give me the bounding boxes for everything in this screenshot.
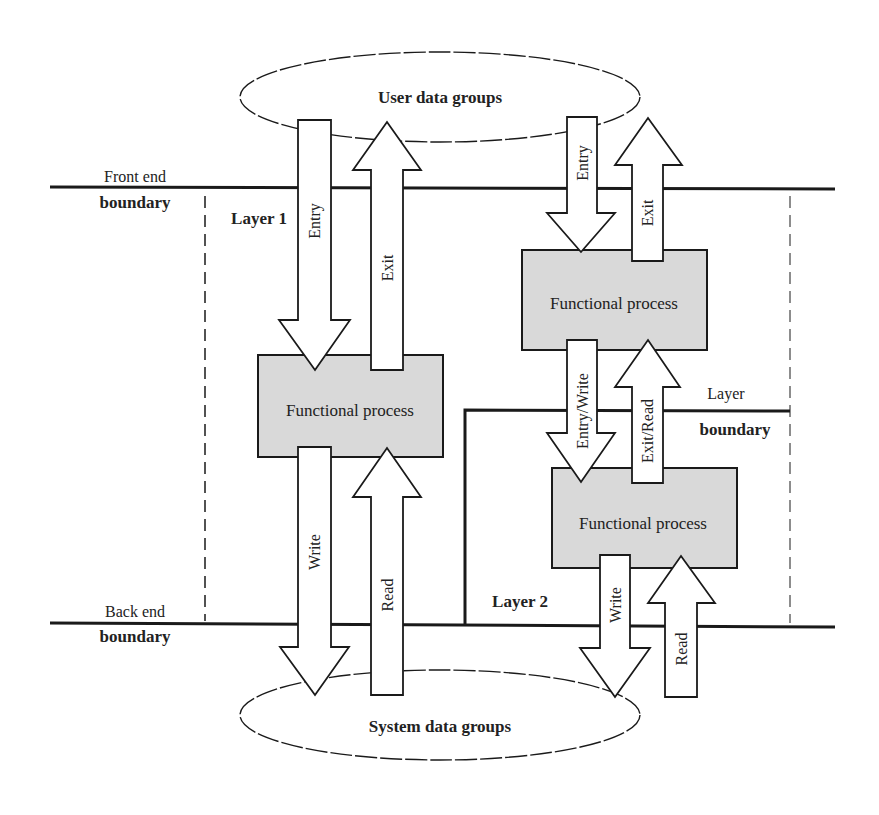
system-data-groups-store bbox=[240, 670, 640, 760]
cosmic-layer-diagram: User data groups System data groups Fron… bbox=[0, 0, 879, 815]
entry-arrow-label-layer2: Entry bbox=[574, 145, 592, 181]
exit-arrow-label-layer2: Exit bbox=[639, 199, 656, 226]
front-end-boundary-label: boundary bbox=[100, 193, 171, 212]
front-end-boundary-line bbox=[50, 187, 835, 189]
exit-arrow-label: Exit bbox=[379, 254, 396, 281]
read-arrow-up bbox=[353, 448, 421, 695]
functional-process-layer1-label: Functional process bbox=[286, 401, 414, 420]
back-end-label: Back end bbox=[105, 603, 165, 620]
layer-boundary-label-line1: Layer bbox=[707, 385, 745, 403]
exit-read-arrow-label: Exit/Read bbox=[639, 399, 656, 463]
write-arrow-label-layer2: Write bbox=[607, 587, 624, 623]
entry-write-arrow-label: Entry/Write bbox=[574, 373, 592, 449]
functional-process-layer2-upper-label: Functional process bbox=[550, 294, 678, 313]
entry-arrow-label: Entry bbox=[306, 203, 324, 239]
read-arrow-label: Read bbox=[379, 579, 396, 612]
front-end-label: Front end bbox=[104, 168, 166, 185]
layer1-label: Layer 1 bbox=[231, 209, 287, 228]
entry-arrow-down bbox=[279, 120, 350, 370]
write-arrow-down bbox=[280, 447, 349, 695]
read-arrow-label-layer2: Read bbox=[673, 633, 690, 666]
system-data-groups-label: System data groups bbox=[369, 717, 512, 736]
layer-boundary-label-line2: boundary bbox=[700, 420, 771, 439]
functional-process-layer2-lower-label: Functional process bbox=[579, 514, 707, 533]
exit-arrow-up bbox=[353, 122, 421, 370]
user-data-groups-label: User data groups bbox=[378, 88, 502, 107]
layer2-label: Layer 2 bbox=[492, 592, 548, 611]
write-arrow-label: Write bbox=[306, 534, 323, 570]
back-end-boundary-label: boundary bbox=[100, 627, 171, 646]
entry-arrow-down-layer2 bbox=[547, 117, 615, 252]
